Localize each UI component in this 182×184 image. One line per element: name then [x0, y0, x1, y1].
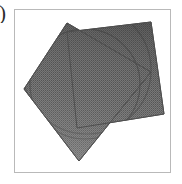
figure-frame: Two overlapping rotated squares with dit…	[14, 9, 171, 173]
figure-canvas	[15, 10, 170, 172]
shading-overlay	[15, 10, 170, 172]
page-root: )	[0, 0, 182, 184]
margin-glyph-fragment: )	[0, 3, 6, 23]
